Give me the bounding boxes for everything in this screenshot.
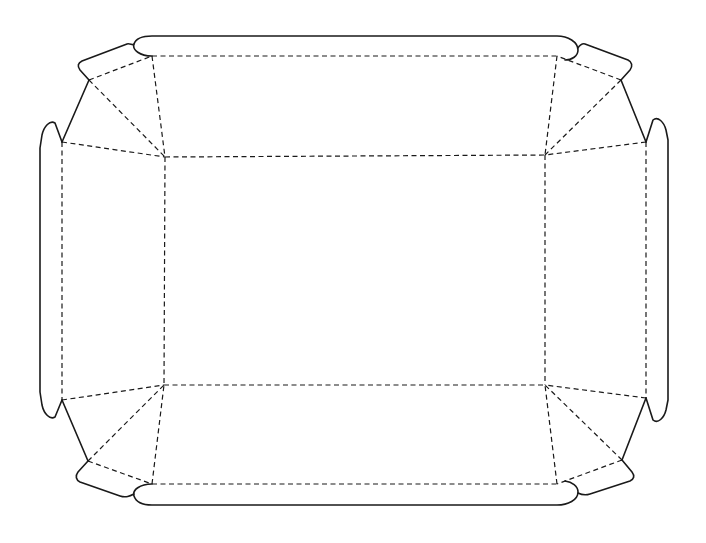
tray-die-line-diagram xyxy=(0,0,706,543)
background xyxy=(0,0,706,543)
